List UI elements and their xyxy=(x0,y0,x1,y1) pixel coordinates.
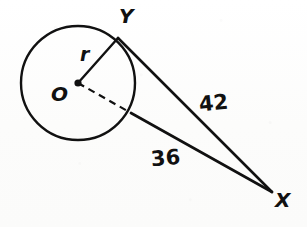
label-point-y: Y xyxy=(119,6,133,26)
dashed-radius-segment xyxy=(78,83,131,113)
tangent-segment-YX xyxy=(118,38,272,192)
geometry-canvas xyxy=(0,0,307,227)
label-radius-r: r xyxy=(80,45,89,64)
geometry-figure: Y O r X 42 36 xyxy=(0,0,307,227)
label-secant-length: 36 xyxy=(150,147,181,170)
center-point-dot xyxy=(74,79,81,86)
label-point-x: X xyxy=(275,190,290,210)
label-point-o: O xyxy=(51,84,68,104)
label-tangent-length: 42 xyxy=(198,92,229,116)
